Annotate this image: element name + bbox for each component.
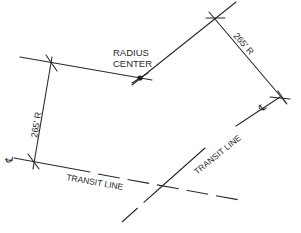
transit-curve-diagram: RADIUS CENTER 265' R 265' R TRANSIT LINE… [0,0,301,233]
right-transit-line-solid [236,97,280,126]
right-radius-line [209,12,287,104]
centerline-symbol-left: ℄ [3,155,15,165]
left-transit-line-solid [14,158,90,172]
radius-center-label-1: RADIUS [113,47,149,58]
center-tick [132,73,148,83]
left-transit-label: TRANSIT LINE [66,172,125,192]
left-radius-label: 265' R [29,111,43,139]
right-transit-line-dashed [122,188,160,222]
right-transit-label: TRANSIT LINE [192,132,243,176]
right-radial-line [132,2,236,85]
radius-center-label-2: CENTER [113,58,152,69]
